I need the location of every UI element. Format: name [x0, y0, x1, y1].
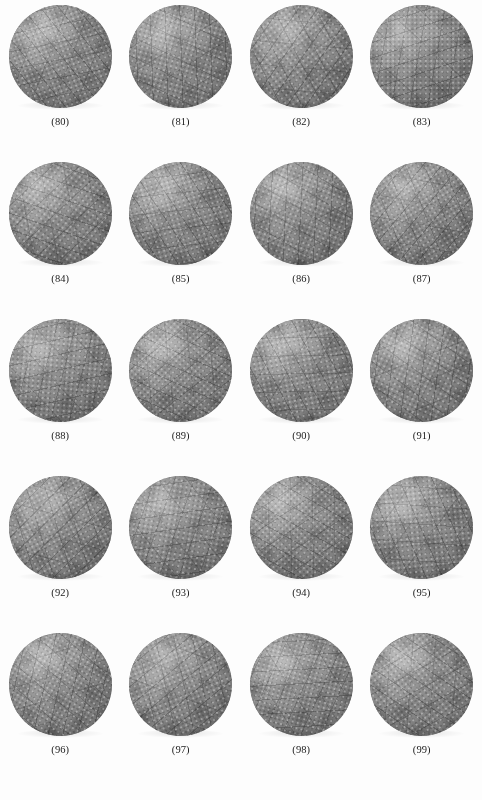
- sphere-limb-darkening: [129, 319, 232, 422]
- sphere-cell-84: (84): [0, 160, 121, 317]
- textured-sphere-icon: [250, 319, 353, 422]
- sphere-caption: (83): [413, 117, 431, 128]
- sphere-contact-shadow: [258, 573, 345, 581]
- sphere-limb-darkening: [250, 476, 353, 579]
- sphere-cell-87: (87): [362, 160, 482, 317]
- sphere-grid: (80) (81): [0, 0, 482, 800]
- sphere-contact-shadow: [137, 416, 224, 424]
- sphere-cell-99: (99): [362, 631, 482, 788]
- textured-sphere-icon: [250, 162, 353, 265]
- sphere-limb-darkening: [9, 476, 112, 579]
- textured-sphere-icon: [9, 633, 112, 736]
- textured-sphere-icon: [129, 162, 232, 265]
- sphere-figure: [370, 5, 473, 108]
- sphere-figure: [9, 162, 112, 265]
- sphere-cell-83: (83): [362, 3, 482, 160]
- sphere-caption: (95): [413, 588, 431, 599]
- textured-sphere-icon: [129, 476, 232, 579]
- sphere-limb-darkening: [129, 5, 232, 108]
- sphere-limb-darkening: [370, 162, 473, 265]
- sphere-limb-darkening: [250, 319, 353, 422]
- sphere-limb-darkening: [250, 633, 353, 736]
- sphere-caption: (89): [172, 431, 190, 442]
- sphere-limb-darkening: [9, 162, 112, 265]
- sphere-figure: [250, 162, 353, 265]
- sphere-cell-90: (90): [241, 317, 362, 474]
- sphere-figure: [9, 5, 112, 108]
- sphere-cell-94: (94): [241, 474, 362, 631]
- sphere-limb-darkening: [370, 476, 473, 579]
- sphere-contact-shadow: [137, 730, 224, 738]
- sphere-caption: (86): [292, 274, 310, 285]
- sphere-limb-darkening: [9, 5, 112, 108]
- textured-sphere-icon: [370, 476, 473, 579]
- textured-sphere-icon: [370, 5, 473, 108]
- sphere-figure: [370, 476, 473, 579]
- textured-sphere-icon: [370, 162, 473, 265]
- sphere-cell-82: (82): [241, 3, 362, 160]
- sphere-contact-shadow: [258, 102, 345, 110]
- textured-sphere-icon: [370, 319, 473, 422]
- textured-sphere-icon: [9, 5, 112, 108]
- sphere-figure: [129, 633, 232, 736]
- sphere-figure: [370, 319, 473, 422]
- sphere-limb-darkening: [9, 633, 112, 736]
- sphere-limb-darkening: [370, 5, 473, 108]
- sphere-limb-darkening: [370, 319, 473, 422]
- sphere-caption: (97): [172, 745, 190, 756]
- sphere-contact-shadow: [17, 259, 104, 267]
- textured-sphere-icon: [129, 319, 232, 422]
- sphere-limb-darkening: [129, 633, 232, 736]
- textured-sphere-icon: [9, 162, 112, 265]
- sphere-cell-95: (95): [362, 474, 482, 631]
- sphere-cell-88: (88): [0, 317, 121, 474]
- sphere-contact-shadow: [17, 730, 104, 738]
- textured-sphere-icon: [9, 476, 112, 579]
- sphere-figure: [129, 319, 232, 422]
- sphere-caption: (91): [413, 431, 431, 442]
- sphere-limb-darkening: [129, 476, 232, 579]
- sphere-figure: [129, 476, 232, 579]
- sphere-figure: [250, 476, 353, 579]
- sphere-cell-85: (85): [121, 160, 242, 317]
- sphere-limb-darkening: [9, 319, 112, 422]
- sphere-contact-shadow: [378, 416, 465, 424]
- sphere-figure: [250, 5, 353, 108]
- sphere-figure: [9, 476, 112, 579]
- sphere-contact-shadow: [378, 730, 465, 738]
- sphere-figure: [250, 319, 353, 422]
- sphere-cell-80: (80): [0, 3, 121, 160]
- sphere-contact-shadow: [137, 102, 224, 110]
- sphere-cell-92: (92): [0, 474, 121, 631]
- sphere-cell-97: (97): [121, 631, 242, 788]
- sphere-caption: (80): [51, 117, 69, 128]
- sphere-caption: (88): [51, 431, 69, 442]
- sphere-caption: (82): [292, 117, 310, 128]
- sphere-caption: (92): [51, 588, 69, 599]
- sphere-cell-81: (81): [121, 3, 242, 160]
- sphere-figure: [129, 162, 232, 265]
- textured-sphere-icon: [250, 476, 353, 579]
- textured-sphere-icon: [250, 633, 353, 736]
- sphere-caption: (87): [413, 274, 431, 285]
- sphere-contact-shadow: [378, 573, 465, 581]
- sphere-limb-darkening: [129, 162, 232, 265]
- sphere-limb-darkening: [250, 5, 353, 108]
- sphere-contact-shadow: [137, 259, 224, 267]
- textured-sphere-icon: [370, 633, 473, 736]
- sphere-caption: (98): [292, 745, 310, 756]
- sphere-cell-91: (91): [362, 317, 482, 474]
- sphere-contact-shadow: [17, 573, 104, 581]
- figure-plate: (80) (81): [0, 0, 482, 800]
- sphere-contact-shadow: [17, 416, 104, 424]
- sphere-caption: (81): [172, 117, 190, 128]
- sphere-caption: (99): [413, 745, 431, 756]
- sphere-figure: [370, 162, 473, 265]
- sphere-figure: [9, 319, 112, 422]
- sphere-cell-93: (93): [121, 474, 242, 631]
- sphere-cell-89: (89): [121, 317, 242, 474]
- sphere-limb-darkening: [370, 633, 473, 736]
- sphere-cell-98: (98): [241, 631, 362, 788]
- sphere-caption: (94): [292, 588, 310, 599]
- sphere-limb-darkening: [250, 162, 353, 265]
